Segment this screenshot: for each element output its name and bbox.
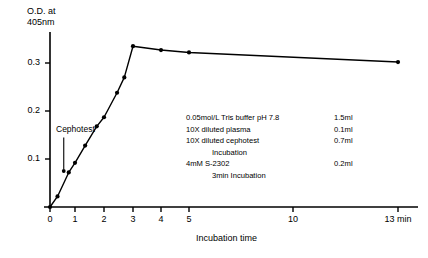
x-axis-title: Incubation time [196, 233, 257, 244]
x-axis-tick-label: 5 [169, 214, 209, 225]
y-axis-tick-label: 0.3 [16, 57, 40, 68]
y-axis-tick-label: 0.2 [16, 105, 40, 116]
chart-figure: O.D. at405nm Cephotest 0.05mol/L Tris bu… [0, 0, 428, 258]
x-axis-tick-label: 10 [273, 214, 313, 225]
x-axis-tick-label: 13 min [378, 214, 418, 225]
y-axis-tick-label: 0.1 [16, 153, 40, 164]
